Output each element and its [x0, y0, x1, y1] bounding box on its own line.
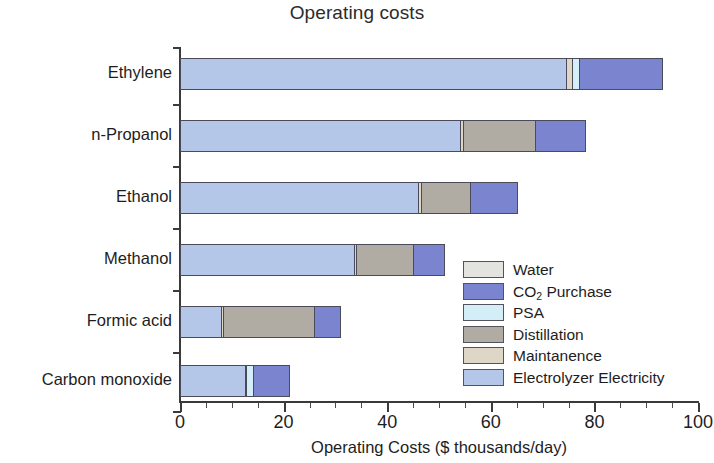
- legend-item[interactable]: PSA: [463, 302, 711, 324]
- bar-segment: [579, 58, 663, 90]
- x-axis-minor-tick: [439, 403, 440, 408]
- stacked-bar: [180, 120, 586, 152]
- x-axis-tick-label: 20: [274, 412, 294, 433]
- category-label: Formic acid: [0, 311, 172, 330]
- bar-segment: [180, 58, 567, 90]
- x-axis-tick-label: 100: [683, 412, 713, 433]
- chart-legend: WaterCO2 PurchasePSADistillationMaintane…: [463, 259, 711, 388]
- legend-label: PSA: [513, 305, 544, 321]
- legend-item[interactable]: Water: [463, 259, 711, 281]
- bar-segment: [535, 120, 585, 152]
- x-axis-major-tick: [491, 403, 493, 412]
- legend-swatch: [463, 369, 504, 386]
- legend-label: Electrolyzer Electricity: [513, 370, 665, 386]
- stacked-bar: [180, 58, 663, 90]
- x-axis-tick-label: 60: [481, 412, 501, 433]
- bar-segment: [253, 365, 290, 397]
- chart-container: Operating costs 020406080100 Ethylenen-P…: [0, 0, 714, 463]
- x-axis-minor-tick: [361, 403, 362, 408]
- x-axis-minor-tick: [232, 403, 233, 408]
- bar-segment: [223, 306, 315, 338]
- bar-segment: [421, 182, 471, 214]
- legend-swatch: [463, 326, 504, 343]
- x-axis-tick-label: 80: [584, 412, 604, 433]
- stacked-bar: [180, 365, 290, 397]
- x-axis-minor-tick: [310, 403, 311, 408]
- bar-segment: [180, 306, 222, 338]
- stacked-bar: [180, 306, 341, 338]
- y-axis-tick: [173, 47, 181, 49]
- category-label: Methanol: [0, 249, 172, 268]
- x-axis-minor-tick: [413, 403, 414, 408]
- x-axis-title: Operating Costs ($ thousands/day): [180, 438, 698, 457]
- x-axis-minor-tick: [335, 403, 336, 408]
- x-axis-major-tick: [594, 403, 596, 412]
- legend-swatch: [463, 261, 504, 278]
- bar-segment: [180, 244, 355, 276]
- x-axis-major-tick: [698, 403, 700, 412]
- x-axis-major-tick: [387, 403, 389, 412]
- category-label: Ethanol: [0, 187, 172, 206]
- category-label: Ethylene: [0, 63, 172, 82]
- x-axis-minor-tick: [517, 403, 518, 408]
- legend-label: CO2 Purchase: [513, 284, 612, 300]
- legend-item[interactable]: CO2 Purchase: [463, 281, 711, 303]
- x-axis-major-tick: [284, 403, 286, 412]
- legend-item[interactable]: Distillation: [463, 324, 711, 346]
- x-axis-minor-tick: [569, 403, 570, 408]
- x-axis-minor-tick: [465, 403, 466, 408]
- legend-label: Distillation: [513, 327, 584, 343]
- x-axis-minor-tick: [620, 403, 621, 408]
- x-axis-minor-tick: [543, 403, 544, 408]
- bar-segment: [463, 120, 537, 152]
- x-axis-minor-tick: [258, 403, 259, 408]
- legend-swatch: [463, 347, 504, 364]
- x-axis-minor-tick: [646, 403, 647, 408]
- bar-segment: [470, 182, 518, 214]
- legend-swatch: [463, 283, 504, 300]
- bar-segment: [413, 244, 445, 276]
- bar-segment: [314, 306, 341, 338]
- x-axis-minor-tick: [672, 403, 673, 408]
- legend-item[interactable]: Electrolyzer Electricity: [463, 367, 711, 389]
- category-label: n-Propanol: [0, 125, 172, 144]
- stacked-bar: [180, 244, 445, 276]
- legend-label: Maintanence: [513, 348, 602, 364]
- bar-segment: [356, 244, 414, 276]
- stacked-bar: [180, 182, 518, 214]
- x-axis-minor-tick: [206, 403, 207, 408]
- bar-segment: [180, 182, 419, 214]
- legend-label: Water: [513, 262, 554, 278]
- chart-title: Operating costs: [0, 2, 714, 24]
- legend-swatch: [463, 304, 504, 321]
- bar-segment: [180, 120, 461, 152]
- legend-item[interactable]: Maintanence: [463, 345, 711, 367]
- category-label: Carbon monoxide: [0, 370, 172, 389]
- bar-segment: [180, 365, 246, 397]
- x-axis-tick-label: 0: [175, 412, 185, 433]
- x-axis-tick-label: 40: [377, 412, 397, 433]
